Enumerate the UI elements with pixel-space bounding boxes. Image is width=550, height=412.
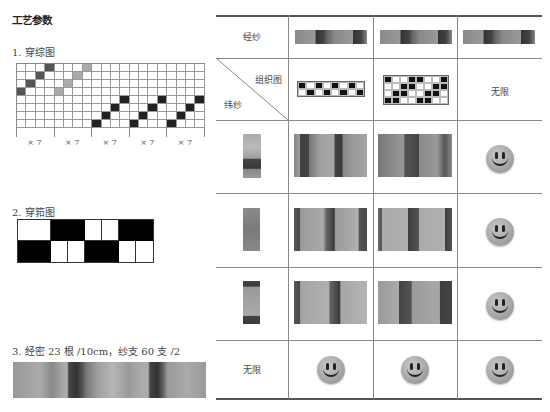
- warp-strip: [380, 30, 452, 44]
- warp-header: 经纱: [216, 30, 288, 43]
- page-title: 工艺参数: [12, 12, 52, 27]
- weft-swatch-2: [243, 208, 260, 251]
- repeat-label: × 7: [91, 138, 128, 147]
- twill-weave-diagram: [383, 75, 449, 105]
- fabric-sample: [294, 134, 367, 177]
- smiley-icon: [486, 145, 514, 173]
- reeding-section-label: 2. 穿筘图: [12, 204, 55, 219]
- fabric-sample: [378, 134, 452, 177]
- fabric-sample: [378, 208, 452, 251]
- weft-swatch-1: [243, 134, 261, 178]
- fabric-sample: [294, 208, 367, 251]
- repeat-label: × 7: [16, 138, 53, 147]
- warp-strip: [295, 30, 367, 44]
- density-section-label: 3. 经密 23 根 /10cm，纱支 60 支 /2: [12, 343, 180, 358]
- threading-draft-grid: [16, 63, 205, 128]
- weft-swatch-3: [243, 281, 260, 324]
- smiley-icon: [317, 356, 345, 384]
- warp-yarn-sample: [13, 362, 206, 398]
- weft-unlimited-label: 无限: [216, 363, 288, 376]
- reeding-draft: [17, 219, 154, 263]
- repeat-label: × 7: [54, 138, 91, 147]
- plain-weave-diagram: [297, 81, 365, 97]
- repeat-label: × 7: [166, 138, 203, 147]
- smiley-icon: [486, 292, 514, 320]
- warp-strip: [463, 30, 535, 44]
- smiley-icon: [486, 218, 514, 246]
- weave-unlimited-label: 无限: [457, 85, 542, 98]
- fabric-sample: [294, 281, 367, 324]
- repeat-separators: [16, 127, 204, 137]
- smiley-icon: [486, 356, 514, 384]
- fabric-sample: [378, 281, 452, 324]
- weft-header: 纬纱: [218, 98, 248, 111]
- weave-header: 组织图: [248, 73, 288, 86]
- repeat-label: × 7: [129, 138, 166, 147]
- smiley-icon: [401, 356, 429, 384]
- threading-section-label: 1. 穿综图: [12, 44, 55, 59]
